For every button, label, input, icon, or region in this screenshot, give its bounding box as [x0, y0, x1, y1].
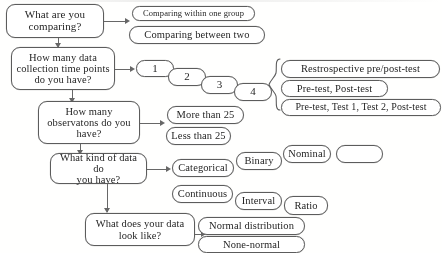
option-timepoint-3[interactable]: 3	[201, 76, 238, 94]
option-ratio[interactable]: Ratio	[284, 196, 328, 215]
scan-artifact	[0, 0, 442, 2]
option-more-than-25[interactable]: More than 25	[167, 106, 244, 124]
question-line-2: comparing?	[25, 21, 85, 33]
question-line-1: What kind of data do	[54, 152, 143, 175]
option-nominal[interactable]: Nominal	[283, 145, 331, 163]
option-label: Normal distribution	[209, 220, 294, 231]
option-label: Comparing between two	[144, 29, 249, 40]
question-line-2: observatons do you	[47, 117, 130, 128]
option-label: 4	[250, 86, 256, 98]
arrowhead-q2-to-timepoints	[130, 66, 135, 72]
question-line-2: collection time points	[16, 63, 109, 74]
option-label: Binary	[244, 155, 273, 166]
question-line-1: How many data	[16, 52, 109, 63]
question-line-3: do you have?	[16, 74, 109, 85]
option-design-pre-t1-t2-post[interactable]: Pre-test, Test 1, Test 2, Post-test	[281, 99, 441, 116]
arrowhead-q3-to-observations	[160, 120, 165, 126]
option-label: 2	[184, 71, 190, 83]
connector-q3-to-observations	[140, 123, 161, 124]
option-label: Categorical	[178, 162, 228, 173]
option-binary[interactable]: Binary	[236, 152, 282, 170]
question-node-data-look[interactable]: What does your data look like?	[85, 213, 195, 246]
option-label: Comparing within one group	[143, 9, 244, 18]
arrowhead-q1-to-comparing	[125, 18, 130, 24]
question-line-2: look like?	[96, 230, 185, 241]
flowchart-canvas: What are you comparing? Comparing within…	[0, 0, 442, 253]
question-line-1: How many	[47, 106, 130, 117]
question-node-timepoints[interactable]: How many data collection time points do …	[11, 47, 115, 90]
connector-q1-to-comparing	[104, 21, 125, 22]
question-line-1: What does your data	[96, 218, 185, 229]
option-label: Pre-test, Test 1, Test 2, Post-test	[295, 102, 426, 113]
option-label: Ratio	[294, 200, 317, 211]
grouping-brace	[268, 58, 282, 111]
question-node-comparing[interactable]: What are you comparing?	[6, 4, 104, 38]
option-label: Pre-test, Post-test	[297, 83, 372, 94]
option-label: Nominal	[288, 148, 325, 159]
option-blank-box[interactable]	[336, 145, 383, 163]
question-node-data-kind[interactable]: What kind of data do you have?	[50, 153, 147, 184]
question-line-2: you have?	[54, 174, 143, 185]
option-label: Less than 25	[171, 130, 225, 141]
option-categorical[interactable]: Categorical	[172, 159, 234, 177]
option-label: None-normal	[223, 239, 280, 250]
option-less-than-25[interactable]: Less than 25	[166, 127, 231, 145]
option-label: More than 25	[177, 109, 235, 120]
option-design-pre-post[interactable]: Pre-test, Post-test	[281, 80, 388, 97]
question-node-observations[interactable]: How many observatons do you have?	[38, 101, 140, 144]
option-comparing-between-two[interactable]: Comparing between two	[129, 26, 265, 44]
option-interval[interactable]: Interval	[235, 192, 282, 210]
connector-q2-to-timepoints	[115, 69, 131, 70]
option-none-normal[interactable]: None-normal	[198, 236, 305, 253]
option-label: Interval	[242, 195, 275, 206]
question-line-3: have?	[47, 128, 130, 139]
option-normal-distribution[interactable]: Normal distribution	[198, 217, 305, 235]
option-timepoint-4[interactable]: 4	[234, 83, 272, 101]
option-label: Restrospective pre/post-test	[301, 63, 420, 74]
option-label: 1	[152, 63, 158, 75]
option-continuous[interactable]: Continuous	[172, 185, 233, 203]
option-comparing-within-one-group[interactable]: Comparing within one group	[132, 6, 255, 21]
arrowhead-q4-to-datatypes	[166, 166, 171, 172]
option-label: 3	[217, 79, 223, 91]
option-design-retrospective[interactable]: Restrospective pre/post-test	[281, 60, 440, 78]
option-label: Continuous	[178, 188, 227, 199]
connector-q4-to-datatypes	[147, 169, 167, 170]
